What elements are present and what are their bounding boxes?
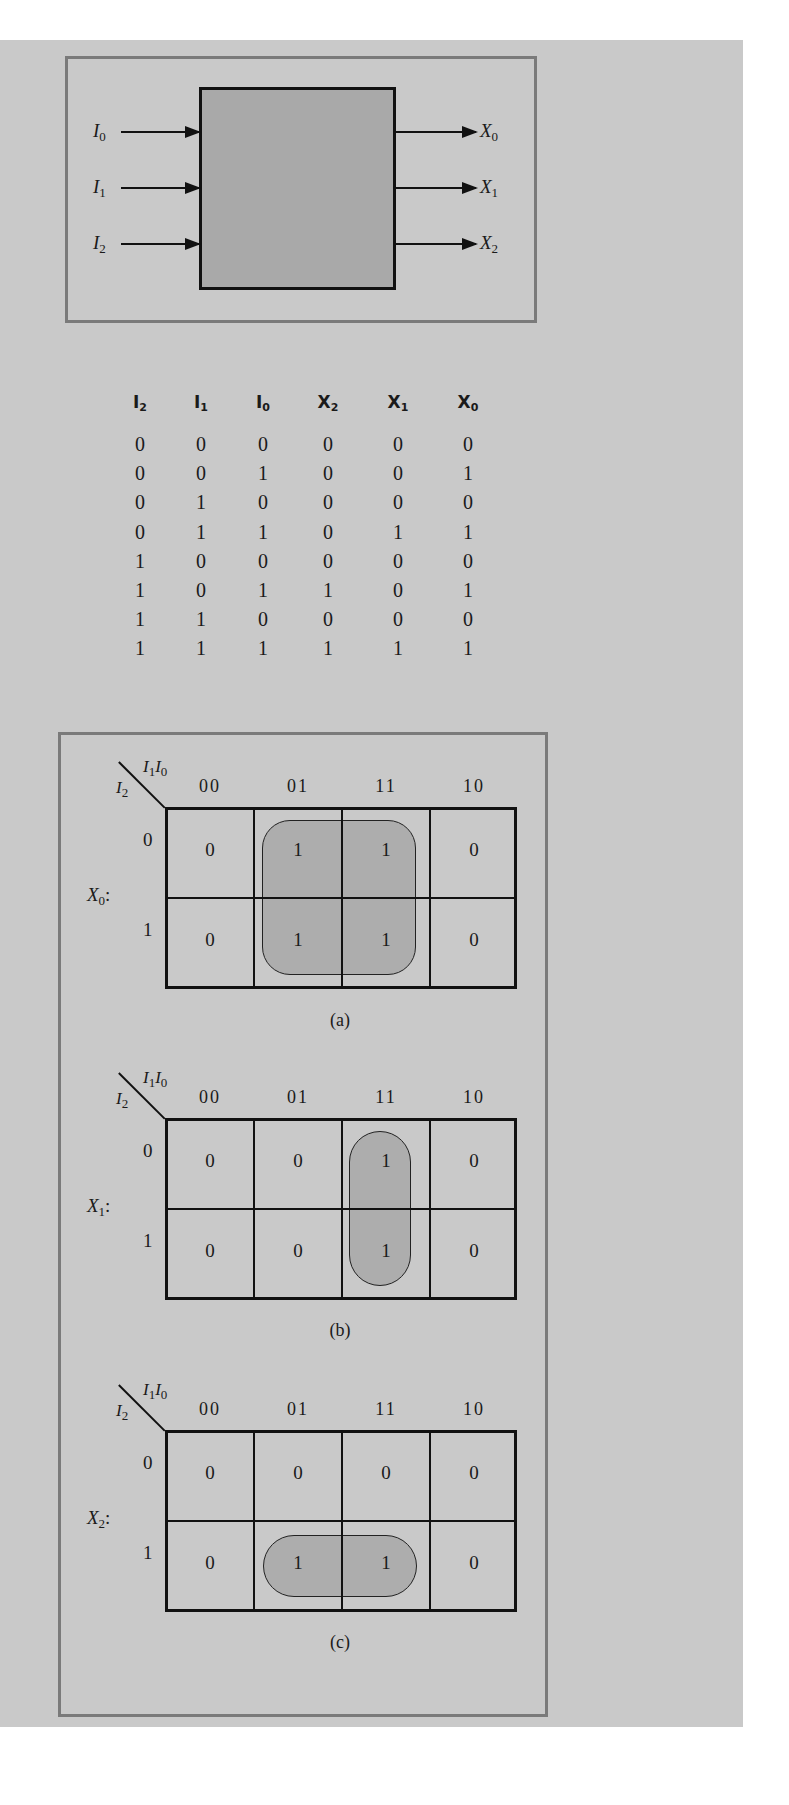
kmap-cell-value: 1 bbox=[381, 839, 391, 861]
kmap-column-label: 10 bbox=[463, 1087, 485, 1108]
truth-table-header: X1 bbox=[388, 392, 409, 414]
kmap-column-label: 00 bbox=[199, 776, 221, 797]
truth-table-cell: 0 bbox=[258, 491, 268, 514]
truth-table-cell: 1 bbox=[258, 637, 268, 660]
truth-table-header: X0 bbox=[458, 392, 479, 414]
truth-table-cell: 1 bbox=[393, 637, 403, 660]
truth-table-cell: 0 bbox=[323, 608, 333, 631]
output-arrow-x0 bbox=[396, 131, 476, 133]
kmap-column-label: 10 bbox=[463, 776, 485, 797]
output-arrow-x1 bbox=[396, 187, 476, 189]
input-label-i1: I1 bbox=[93, 177, 106, 199]
kmap-cell-value: 0 bbox=[293, 1240, 303, 1262]
truth-table-cell: 1 bbox=[196, 608, 206, 631]
kmap-column-label: 00 bbox=[199, 1087, 221, 1108]
truth-table-cell: 0 bbox=[393, 433, 403, 456]
kmap-caption: (a) bbox=[330, 1010, 350, 1031]
kmap-column-label: 01 bbox=[287, 776, 309, 797]
truth-table-cell: 0 bbox=[196, 433, 206, 456]
output-arrow-x2 bbox=[396, 243, 476, 245]
kmap-cell-value: 1 bbox=[381, 1150, 391, 1172]
kmap-cell-value: 1 bbox=[293, 1552, 303, 1574]
truth-table-cell: 1 bbox=[135, 637, 145, 660]
kmap-column-label: 01 bbox=[287, 1399, 309, 1420]
truth-table-cell: 0 bbox=[393, 579, 403, 602]
kmap-row-variable: I2 bbox=[116, 1090, 128, 1110]
kmap-column-label: 11 bbox=[375, 776, 396, 797]
truth-table-cell: 1 bbox=[196, 521, 206, 544]
truth-table-header: I0 bbox=[256, 392, 270, 414]
truth-table-cell: 1 bbox=[463, 521, 473, 544]
input-arrow-i0 bbox=[121, 131, 199, 133]
truth-table-cell: 0 bbox=[463, 550, 473, 573]
kmap-cell-value: 0 bbox=[469, 1240, 479, 1262]
kmap-cell-value: 0 bbox=[469, 1150, 479, 1172]
truth-table-cell: 0 bbox=[323, 550, 333, 573]
truth-table-cell: 0 bbox=[393, 608, 403, 631]
truth-table-cell: 1 bbox=[463, 637, 473, 660]
kmap-cell-value: 1 bbox=[293, 929, 303, 951]
output-label-x2: X2 bbox=[480, 233, 498, 255]
kmap-column-label: 11 bbox=[375, 1399, 396, 1420]
truth-table-cell: 1 bbox=[323, 579, 333, 602]
kmap-cell-value: 0 bbox=[381, 1462, 391, 1484]
kmap-column-label: 10 bbox=[463, 1399, 485, 1420]
kmap-row-label: 1 bbox=[143, 1230, 153, 1252]
kmap-column-label: 01 bbox=[287, 1087, 309, 1108]
input-label-i0: I0 bbox=[93, 121, 106, 143]
kmap-cell-value: 1 bbox=[381, 1240, 391, 1262]
kmap-cell-value: 1 bbox=[381, 929, 391, 951]
kmap-cell-value: 0 bbox=[205, 1552, 215, 1574]
output-label-x0: X0 bbox=[480, 121, 498, 143]
truth-table-cell: 1 bbox=[463, 579, 473, 602]
truth-table-cell: 0 bbox=[135, 521, 145, 544]
kmap-row-variable: I2 bbox=[116, 779, 128, 799]
kmap-output-label: X0: bbox=[87, 885, 110, 907]
kmap-output-label: X1: bbox=[87, 1196, 110, 1218]
kmap-row-label: 1 bbox=[143, 919, 153, 941]
kmap-cell-value: 1 bbox=[381, 1552, 391, 1574]
kmap-column-label: 00 bbox=[199, 1399, 221, 1420]
truth-table-header: I2 bbox=[133, 392, 147, 414]
truth-table-cell: 1 bbox=[393, 521, 403, 544]
truth-table-cell: 1 bbox=[135, 579, 145, 602]
kmap-cell-value: 0 bbox=[205, 1462, 215, 1484]
kmap-divider bbox=[165, 1520, 517, 1522]
kmap-output-label: X2: bbox=[87, 1508, 110, 1530]
kmap-column-variable: I1I0 bbox=[143, 1069, 167, 1089]
truth-table-cell: 1 bbox=[323, 637, 333, 660]
kmap-column-variable: I1I0 bbox=[143, 758, 167, 778]
truth-table-cell: 0 bbox=[135, 462, 145, 485]
input-label-i2: I2 bbox=[93, 233, 106, 255]
kmap-caption: (c) bbox=[330, 1632, 350, 1653]
truth-table-cell: 0 bbox=[196, 550, 206, 573]
kmap-row-variable: I2 bbox=[116, 1402, 128, 1422]
kmap-cell-value: 0 bbox=[205, 839, 215, 861]
kmap-cell-value: 0 bbox=[293, 1150, 303, 1172]
kmap-cell-value: 0 bbox=[469, 839, 479, 861]
truth-table-cell: 1 bbox=[196, 637, 206, 660]
kmap-row-label: 0 bbox=[143, 1452, 153, 1474]
truth-table-cell: 0 bbox=[323, 491, 333, 514]
kmap-cell-value: 0 bbox=[469, 929, 479, 951]
truth-table-cell: 0 bbox=[323, 521, 333, 544]
truth-table-cell: 0 bbox=[258, 433, 268, 456]
truth-table-cell: 0 bbox=[196, 462, 206, 485]
truth-table-cell: 0 bbox=[393, 491, 403, 514]
kmap-cell-value: 0 bbox=[205, 1240, 215, 1262]
truth-table-cell: 0 bbox=[196, 579, 206, 602]
kmap-row-label: 0 bbox=[143, 829, 153, 851]
truth-table-cell: 1 bbox=[135, 550, 145, 573]
kmap-row-label: 1 bbox=[143, 1542, 153, 1564]
truth-table-cell: 0 bbox=[323, 462, 333, 485]
input-arrow-i2 bbox=[121, 243, 199, 245]
kmap-column-variable: I1I0 bbox=[143, 1381, 167, 1401]
kmap-cell-value: 1 bbox=[293, 839, 303, 861]
kmap-column-label: 11 bbox=[375, 1087, 396, 1108]
input-arrow-i1 bbox=[121, 187, 199, 189]
truth-table-cell: 1 bbox=[258, 462, 268, 485]
truth-table-cell: 0 bbox=[135, 433, 145, 456]
truth-table-cell: 1 bbox=[196, 491, 206, 514]
truth-table-cell: 0 bbox=[393, 550, 403, 573]
truth-table-cell: 0 bbox=[463, 491, 473, 514]
